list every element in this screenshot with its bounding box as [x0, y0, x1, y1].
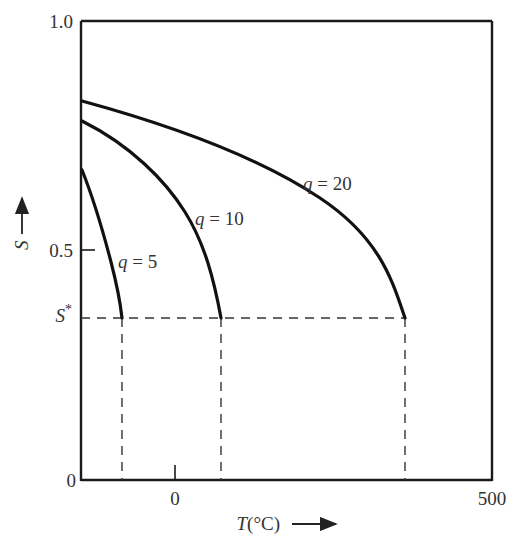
y-label-0: 0: [67, 470, 77, 491]
curve-q5: [82, 170, 122, 318]
x-label-0: 0: [170, 488, 180, 509]
reference-lines: [81, 318, 405, 480]
phase-chart: q = 5 q = 10 q = 20 1.0 0.5 0 S* 0 500 T…: [0, 0, 516, 539]
svg-text:T(°C): T(°C): [236, 513, 280, 535]
label-q10: q = 10: [195, 208, 244, 229]
label-q20: q = 20: [303, 173, 352, 194]
y-axis-title: S: [11, 198, 32, 250]
x-axis-title: T(°C): [236, 513, 336, 535]
y-label-1.0: 1.0: [49, 11, 73, 32]
label-q5: q = 5: [118, 251, 157, 272]
svg-text:S: S: [11, 240, 32, 250]
y-label-0.5: 0.5: [49, 240, 73, 261]
x-label-500: 500: [478, 488, 507, 509]
y-label-s-star: S*: [56, 302, 73, 326]
